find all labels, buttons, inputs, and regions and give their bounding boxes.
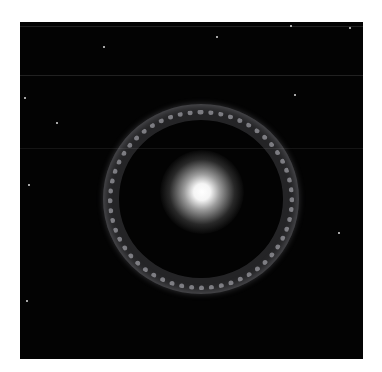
galaxy-image [20, 22, 363, 359]
star [28, 184, 30, 186]
star [216, 36, 218, 38]
star [338, 232, 340, 234]
scan-streak [20, 26, 363, 27]
star [294, 94, 296, 96]
star [103, 46, 105, 48]
star [56, 122, 58, 124]
star [24, 97, 26, 99]
scan-streak [20, 75, 363, 76]
galaxy-core [160, 150, 244, 234]
star [26, 300, 28, 302]
star [349, 27, 351, 29]
star [290, 25, 292, 27]
